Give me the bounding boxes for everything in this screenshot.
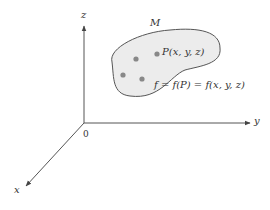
function-equation: f = f(P) = f(x, y, z) bbox=[154, 79, 245, 90]
diagram-canvas: z y x 0 M P(x, y, z) f = f(P) = f(x, y, … bbox=[0, 0, 270, 210]
point-4 bbox=[139, 76, 144, 81]
region-label: M bbox=[150, 17, 160, 28]
point-p-label: P(x, y, z) bbox=[162, 46, 204, 57]
point-3 bbox=[120, 72, 125, 77]
z-axis-label: z bbox=[81, 9, 86, 20]
y-axis-label: y bbox=[254, 115, 260, 126]
point-2 bbox=[133, 56, 138, 61]
x-axis-label: x bbox=[14, 184, 20, 195]
point-p bbox=[154, 51, 159, 56]
origin-label: 0 bbox=[83, 129, 89, 139]
diagram-svg bbox=[0, 0, 270, 210]
x-axis bbox=[26, 123, 84, 186]
